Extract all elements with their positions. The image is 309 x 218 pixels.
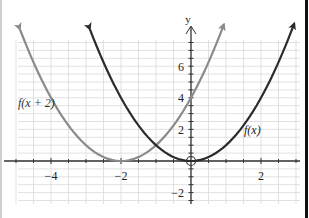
- x-tick-label: 2: [258, 169, 264, 183]
- chart-frame: −4 −2 2 6 4 2 −2 y f(x + 2) f(x): [0, 0, 309, 218]
- parabola-chart: −4 −2 2 6 4 2 −2 y f(x + 2) f(x): [0, 0, 309, 218]
- left-border: [0, 0, 2, 218]
- label-f-x: f(x): [244, 123, 261, 137]
- curve-f-x: [90, 24, 294, 161]
- x-tick-label: −4: [45, 169, 58, 183]
- x-axis: [4, 158, 300, 164]
- y-tick-label: 6: [178, 60, 184, 74]
- x-tick-label: −2: [115, 169, 128, 183]
- y-axis-label: y: [185, 13, 191, 25]
- right-border: [305, 0, 308, 218]
- y-tick-label: −2: [171, 186, 184, 200]
- curve-f-x-plus-2: [20, 24, 224, 161]
- label-f-x-plus-2: f(x + 2): [18, 96, 55, 110]
- y-axis: [186, 26, 196, 204]
- y-tick-label: 4: [178, 91, 184, 105]
- y-tick-label: 2: [178, 123, 184, 137]
